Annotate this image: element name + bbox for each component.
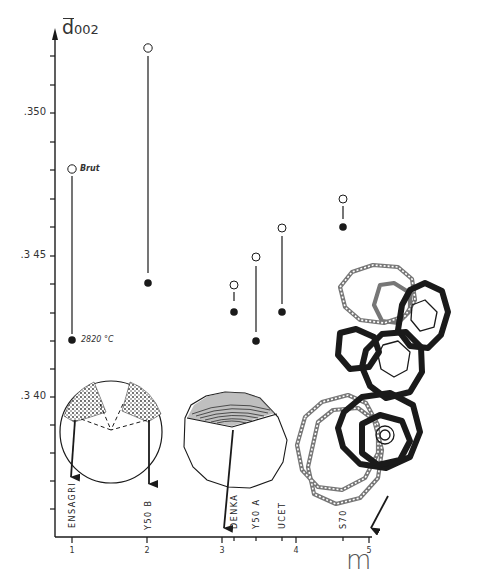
point-pair-s70 xyxy=(339,195,347,231)
point-pair-y50a xyxy=(252,253,260,345)
y-axis-label: d002 xyxy=(62,16,99,38)
filled-circle-marker xyxy=(278,308,286,316)
open-circle-marker xyxy=(278,224,286,232)
y-tick-label-345: .3 45 xyxy=(16,249,46,260)
x-tick-label-4: 4 xyxy=(290,546,302,555)
sample-label-ucet: UCET xyxy=(278,502,287,529)
open-circle-marker xyxy=(144,44,152,52)
filled-circle-marker xyxy=(339,223,347,231)
y-axis-label-main: d xyxy=(62,16,74,38)
fiber-rings-illustration-3 xyxy=(297,265,448,528)
filled-circle-marker xyxy=(230,308,238,316)
open-circle-marker xyxy=(252,253,260,261)
x-axis xyxy=(55,537,372,543)
data-series xyxy=(68,44,347,345)
arrow-icon xyxy=(71,420,75,477)
filled-circle-marker xyxy=(252,337,260,345)
y-axis-ticks xyxy=(50,56,55,509)
sample-label-ensagri: ENSAGRI xyxy=(68,482,77,528)
sample-label-y50b: Y50 B xyxy=(144,499,153,530)
y-axis-label-subscript: 002 xyxy=(74,22,99,37)
sample-label-denka: DENKA xyxy=(230,494,239,529)
open-circle-marker xyxy=(339,195,347,203)
filled-circle-marker xyxy=(68,336,76,344)
x-axis-label: m xyxy=(346,545,371,575)
open-circle-marker xyxy=(230,281,238,289)
sample-label-s70: S70 xyxy=(339,509,348,529)
x-axis-ticks xyxy=(72,537,369,543)
sample-label-y50a: Y50 A xyxy=(252,498,261,529)
point-pair-y50b xyxy=(144,44,152,287)
x-tick-label-3: 3 xyxy=(216,546,228,555)
y-axis-arrow-icon xyxy=(52,28,58,40)
arrow-icon xyxy=(371,496,388,528)
y-tick-label-340: .3 40 xyxy=(16,390,46,401)
annotation-brut: Brut xyxy=(80,164,100,173)
filled-circle-marker xyxy=(144,279,152,287)
y-tick-label-350: .350 xyxy=(16,106,46,117)
x-tick-label-2: 2 xyxy=(141,546,153,555)
y-axis xyxy=(50,28,58,537)
point-pair-denka xyxy=(230,281,238,316)
open-circle-marker xyxy=(68,165,76,173)
annotation-temperature: 2820 °C xyxy=(81,335,114,344)
x-tick-label-1: 1 xyxy=(66,546,78,555)
point-pair-ucet xyxy=(278,224,286,316)
fiber-section-illustration-1 xyxy=(60,381,162,484)
overline-mark xyxy=(63,18,74,19)
point-pair-ensagri xyxy=(68,165,76,344)
